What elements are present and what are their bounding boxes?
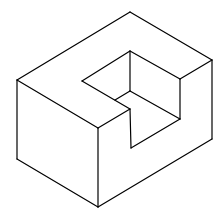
isometric-block-figure — [0, 0, 221, 221]
notch-bottom-edge — [131, 119, 180, 148]
left-bottom-edge — [17, 159, 98, 207]
front-top-to-notch — [98, 109, 130, 128]
right-top-to-notch — [180, 60, 212, 79]
top-front-edge — [17, 80, 98, 128]
notch-top-left — [82, 51, 130, 81]
top-left-edge — [17, 12, 130, 80]
top-right-edge — [130, 12, 212, 60]
notch-floor-diagonal — [130, 91, 180, 119]
notch-step-top — [115, 91, 130, 100]
front-bottom-edge — [98, 139, 212, 207]
notch-inner-vertical — [130, 109, 131, 148]
notch-top-right — [130, 51, 180, 79]
